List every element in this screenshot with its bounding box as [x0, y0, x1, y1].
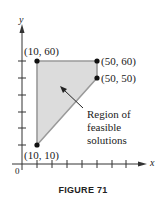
region-label-line-1: Region of [87, 108, 131, 120]
vertex-label-50-50: (50, 50) [101, 72, 136, 84]
figure-plot [0, 0, 166, 203]
vertex-10-10 [34, 142, 39, 147]
x-axis-arrow-icon [138, 162, 147, 167]
region-label-line-3: solutions [87, 134, 127, 146]
origin-label: 0 [15, 165, 20, 177]
vertex-10-60 [34, 58, 39, 63]
y-axis-label: y [19, 14, 23, 26]
vertex-label-50-60: (50, 60) [101, 55, 136, 67]
region-label-line-2: feasible [87, 121, 121, 133]
vertex-label-10-10: (10, 10) [24, 149, 59, 161]
vertex-label-10-60: (10, 60) [24, 45, 59, 57]
vertex-50-50 [94, 75, 99, 80]
x-axis-label: x [150, 157, 154, 169]
vertex-50-60 [94, 58, 99, 63]
figure-caption: FIGURE 71 [0, 185, 166, 195]
